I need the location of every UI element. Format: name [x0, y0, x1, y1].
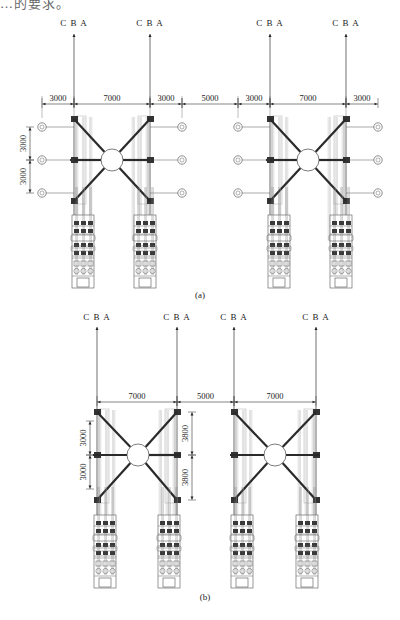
dimension-label: 3000	[50, 93, 67, 103]
switchgear-bay	[133, 187, 157, 288]
switchgear-bay	[157, 487, 181, 588]
arrowhead-icon	[71, 103, 74, 106]
insulator-symbol-icon	[38, 123, 46, 131]
arrowhead-icon	[239, 103, 242, 106]
insulator-symbol-icon	[38, 189, 46, 197]
panel-b: C B AC B AC B AC B A70005000700030003000…	[78, 312, 330, 602]
insulator-symbol-icon	[178, 189, 186, 197]
dimension-vertical: 3000	[18, 127, 34, 160]
center-equipment-circle	[297, 149, 319, 171]
dimension-label: 3000	[246, 93, 263, 103]
dimension-label: 5000	[197, 391, 214, 401]
arrowhead-icon	[269, 34, 272, 37]
arrowhead-icon	[315, 327, 318, 330]
insulator-symbol-icon	[234, 123, 242, 131]
dimension-vertical: 3000	[78, 421, 94, 455]
arrowhead-icon	[29, 128, 32, 131]
insulator-symbol-icon	[178, 123, 186, 131]
phase-label: C B A	[136, 18, 164, 28]
dimension-label: 3800	[180, 469, 190, 486]
dimension-label: 3000	[18, 135, 28, 152]
dimension-label: 3800	[180, 425, 190, 442]
arrowhead-icon	[375, 103, 378, 106]
dimension-label: 3000	[354, 93, 371, 103]
arrowhead-icon	[149, 34, 152, 37]
phase-label: C B A	[332, 18, 360, 28]
arrowhead-icon	[98, 401, 101, 404]
dimension-horizontal: 5000	[182, 93, 238, 108]
phase-label: C B A	[220, 312, 248, 322]
diagonal-conductor	[74, 119, 105, 152]
phase-label: C B A	[256, 18, 284, 28]
dimension-label: 3000	[18, 168, 28, 185]
arrowhead-icon	[347, 103, 350, 106]
center-equipment-circle	[101, 149, 123, 171]
arrowhead-icon	[176, 327, 179, 330]
arrowhead-icon	[89, 422, 92, 425]
insulator-symbol-icon	[374, 123, 382, 131]
diagonal-conductor	[283, 412, 316, 447]
diagonal-conductor	[270, 168, 301, 201]
diagonal-conductor	[234, 412, 267, 447]
dimension-label: 5000	[202, 93, 219, 103]
dimension-label: 7000	[104, 93, 121, 103]
arrowhead-icon	[313, 401, 316, 404]
dimension-horizontal: 7000	[234, 391, 316, 406]
dimension-vertical: 3000	[78, 455, 94, 489]
dimension-horizontal: 7000	[97, 391, 177, 406]
dimension-label: 3000	[78, 464, 88, 481]
cut-off-heading-text: …的要求。	[0, 0, 70, 12]
phase-label: C B A	[83, 312, 111, 322]
arrowhead-icon	[235, 401, 238, 404]
arrowhead-icon	[89, 452, 92, 455]
arrowhead-icon	[343, 103, 346, 106]
diagonal-conductor	[97, 463, 130, 500]
arrowhead-icon	[179, 103, 182, 106]
dimension-vertical: 3000	[18, 160, 34, 193]
dimension-label: 7000	[129, 391, 146, 401]
insulator-symbol-icon	[374, 156, 382, 164]
insulator-symbol-icon	[38, 156, 46, 164]
diagonal-conductor	[119, 119, 150, 152]
dimension-vertical: 3800	[180, 412, 196, 455]
caption-a: (a)	[195, 290, 205, 300]
diagonal-conductor	[74, 168, 105, 201]
dimension-horizontal: 3000	[42, 93, 74, 108]
insulator-symbol-icon	[234, 189, 242, 197]
arrowhead-icon	[191, 456, 194, 459]
insulator-symbol-icon	[178, 156, 186, 164]
arrowhead-icon	[29, 161, 32, 164]
arrowhead-icon	[147, 103, 150, 106]
phase-label: C B A	[60, 18, 88, 28]
panel-a: C B AC B AC B AC B A30007000300050003000…	[18, 18, 382, 300]
center-equipment-circle	[127, 444, 149, 466]
phase-label: C B A	[302, 312, 330, 322]
arrowhead-icon	[191, 413, 194, 416]
dimension-horizontal: 3000	[150, 93, 182, 108]
center-equipment-circle	[264, 444, 286, 466]
dimension-horizontal: 3000	[346, 93, 378, 108]
switchgear-bay	[295, 487, 319, 588]
switchgear-bay	[329, 187, 353, 288]
arrowhead-icon	[178, 401, 181, 404]
dimension-horizontal: 3000	[238, 93, 270, 108]
arrowhead-icon	[75, 103, 78, 106]
figure: …的要求。 C B AC B AC B AC B A30007000300050…	[0, 0, 400, 620]
diagonal-conductor	[97, 412, 130, 447]
diagonal-conductor	[315, 119, 346, 152]
arrowhead-icon	[29, 157, 32, 160]
diagonal-conductor	[315, 168, 346, 201]
arrowhead-icon	[43, 103, 46, 106]
dimension-vertical: 3800	[180, 455, 196, 500]
diagonal-conductor	[119, 168, 150, 201]
insulator-symbol-icon	[234, 156, 242, 164]
phase-label: C B A	[163, 312, 191, 322]
diagonal-conductor	[146, 412, 177, 447]
arrowhead-icon	[89, 486, 92, 489]
diagonal-conductor	[270, 119, 301, 152]
insulator-symbol-icon	[374, 189, 382, 197]
arrowhead-icon	[231, 401, 234, 404]
diagonal-conductor	[234, 463, 267, 500]
arrowhead-icon	[89, 456, 92, 459]
arrowhead-icon	[191, 497, 194, 500]
